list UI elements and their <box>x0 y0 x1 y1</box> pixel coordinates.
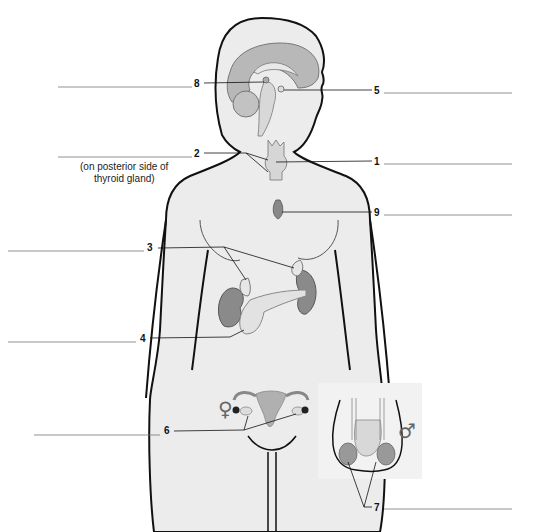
label-number-4: 4 <box>140 333 146 344</box>
label-number-6: 6 <box>164 425 170 436</box>
male-symbol-icon: ♂ <box>398 419 416 443</box>
adrenal-left <box>240 278 250 296</box>
label-number-1: 1 <box>374 156 380 167</box>
fimbria-right <box>302 407 309 414</box>
label-number-7: 7 <box>374 502 380 513</box>
testis-left <box>339 443 357 465</box>
parathyroid-note-line2: thyroid gland) <box>94 173 155 184</box>
ovary-left <box>240 407 252 415</box>
parathyroid-note-line1: (on posterior side of <box>80 161 169 172</box>
testis-right <box>377 443 395 465</box>
label-number-3: 3 <box>147 242 153 253</box>
cerebellum <box>233 91 259 117</box>
thymus <box>273 200 283 219</box>
pituitary-gland <box>278 86 284 92</box>
endocrine-diagram: ♀ ♂ 8 5 2 1 9 3 4 6 7 (on posterior side… <box>0 0 536 532</box>
label-number-8: 8 <box>194 78 200 89</box>
female-symbol-icon: ♀ <box>218 397 233 421</box>
label-number-5: 5 <box>374 85 380 96</box>
label-number-9: 9 <box>374 207 380 218</box>
label-number-2: 2 <box>194 148 200 159</box>
fimbria-left <box>233 407 240 414</box>
